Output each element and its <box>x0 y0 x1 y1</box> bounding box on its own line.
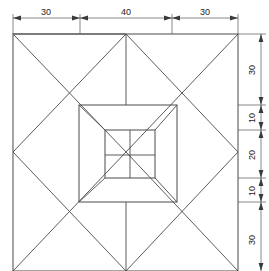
arrow-v-g <box>259 178 264 186</box>
arrow-h-d <box>164 16 172 21</box>
dim-label-v-1: 10 <box>247 113 257 123</box>
arrow-h-a <box>13 16 21 21</box>
arrow-v-j <box>259 263 264 271</box>
dim-label-h-2: 30 <box>200 7 210 17</box>
technical-drawing-canvas: 30 40 30 30 10 20 10 30 <box>0 0 269 271</box>
arrow-v-c <box>259 105 264 113</box>
dim-label-v-4: 30 <box>247 235 257 245</box>
dim-label-v-2: 20 <box>247 150 257 160</box>
arrow-v-d <box>259 122 264 130</box>
taper-diagonal-br <box>155 178 177 202</box>
dim-label-v-3: 10 <box>247 186 257 196</box>
arrow-v-i <box>259 202 264 210</box>
dim-label-h-1: 40 <box>121 7 131 17</box>
arrow-v-a <box>259 34 264 42</box>
arrow-h-b <box>72 16 80 21</box>
dim-label-h-0: 30 <box>41 7 51 17</box>
hip-diagonals <box>13 34 238 271</box>
horizontal-dimension-group <box>13 14 238 34</box>
taper-diagonal-bl <box>79 178 105 202</box>
arrow-v-e <box>259 130 264 138</box>
arrow-h-f <box>230 16 238 21</box>
vertical-dimension-labels: 30 10 20 10 30 <box>247 65 257 245</box>
horizontal-dimension-labels: 30 40 30 <box>41 7 210 17</box>
arrow-v-f <box>259 170 264 178</box>
dim-label-v-0: 30 <box>247 65 257 75</box>
inner-cross-dividers <box>105 130 155 178</box>
arrow-h-e <box>172 16 180 21</box>
arrow-h-c <box>80 16 88 21</box>
arrow-v-b <box>259 97 264 105</box>
arrow-v-h <box>259 194 264 202</box>
taper-diagonal-tl <box>79 105 105 130</box>
